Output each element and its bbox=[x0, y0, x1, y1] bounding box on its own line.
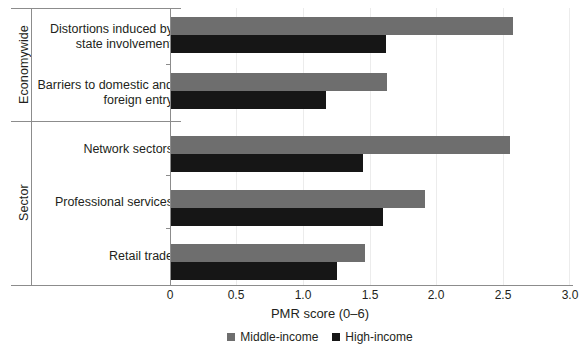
bar-middle-income-professional-services bbox=[170, 190, 425, 208]
group-divider-top bbox=[11, 8, 181, 9]
bar-high-income-retail-trade bbox=[170, 262, 337, 280]
bar-middle-income-barriers bbox=[170, 73, 387, 91]
bar-chart: Economywide Sector Distortions induced b… bbox=[0, 0, 584, 352]
category-label-network-sectors: Network sectors bbox=[33, 142, 173, 157]
category-label-distortions: Distortions induced by state involvement bbox=[33, 22, 173, 51]
bar-middle-income-distortions bbox=[170, 17, 513, 35]
bar-middle-income-network-sectors bbox=[170, 136, 510, 154]
x-axis-title: PMR score (0–6) bbox=[0, 306, 584, 321]
legend-swatch-high-income bbox=[332, 333, 340, 341]
legend-swatch-middle-income bbox=[227, 333, 235, 341]
category-label-retail-trade: Retail trade bbox=[33, 249, 173, 264]
chart-legend: Middle-income High-income bbox=[0, 330, 584, 344]
legend-label-middle-income: Middle-income bbox=[240, 330, 318, 344]
bar-middle-income-retail-trade bbox=[170, 244, 365, 262]
bar-high-income-distortions bbox=[170, 35, 386, 53]
legend-item-high-income: High-income bbox=[332, 330, 412, 344]
bar-high-income-network-sectors bbox=[170, 154, 363, 172]
bar-high-income-professional-services bbox=[170, 208, 383, 226]
group-label-sector: Sector bbox=[14, 121, 34, 285]
xtick-label-2.5: 2.5 bbox=[483, 288, 523, 302]
bar-high-income-barriers bbox=[170, 91, 326, 109]
legend-label-high-income: High-income bbox=[345, 330, 412, 344]
value-axis-line bbox=[170, 8, 171, 285]
xtick-label-0: 0 bbox=[150, 288, 190, 302]
gridline-3.0 bbox=[569, 8, 570, 285]
category-axis-line bbox=[11, 285, 573, 286]
plot-area bbox=[170, 8, 570, 285]
group-divider-middle bbox=[11, 121, 181, 122]
xtick-label-2.0: 2.0 bbox=[416, 288, 456, 302]
legend-item-middle-income: Middle-income bbox=[227, 330, 318, 344]
category-label-professional-services: Professional services bbox=[33, 195, 173, 210]
xtick-label-1.0: 1.0 bbox=[283, 288, 323, 302]
xtick-label-0.5: 0.5 bbox=[216, 288, 256, 302]
category-label-barriers: Barriers to domestic and foreign entry bbox=[33, 78, 173, 107]
xtick-label-3.0: 3.0 bbox=[550, 288, 584, 302]
xtick-label-1.5: 1.5 bbox=[350, 288, 390, 302]
group-label-economywide: Economywide bbox=[14, 8, 34, 121]
